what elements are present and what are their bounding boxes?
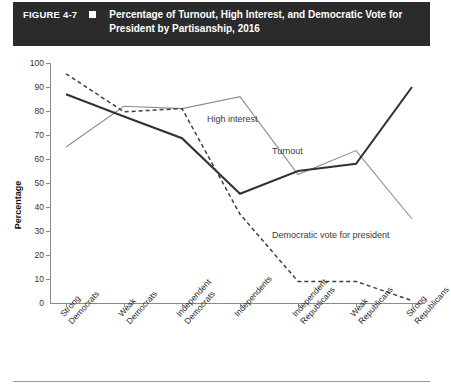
series-annotation-democratic-vote: Democratic vote for president — [272, 230, 390, 240]
series-annotation-high-interest: High interest — [207, 114, 258, 124]
figure-title: Percentage of Turnout, High Interest, an… — [109, 8, 422, 35]
figure-header-banner: FIGURE 4-7 Percentage of Turnout, High I… — [13, 2, 430, 46]
chart-plot-area: Percentage 100 90 80 70 60 50 40 30 20 1… — [0, 50, 443, 388]
bottom-divider-rule — [13, 381, 430, 382]
series-line-democratic-vote — [66, 74, 412, 301]
chart-series-svg — [0, 50, 443, 388]
series-annotation-turnout: Turnout — [272, 146, 303, 156]
series-line-turnout — [66, 87, 412, 194]
filled-square-icon — [89, 11, 96, 18]
figure-number: FIGURE 4-7 — [23, 8, 77, 20]
